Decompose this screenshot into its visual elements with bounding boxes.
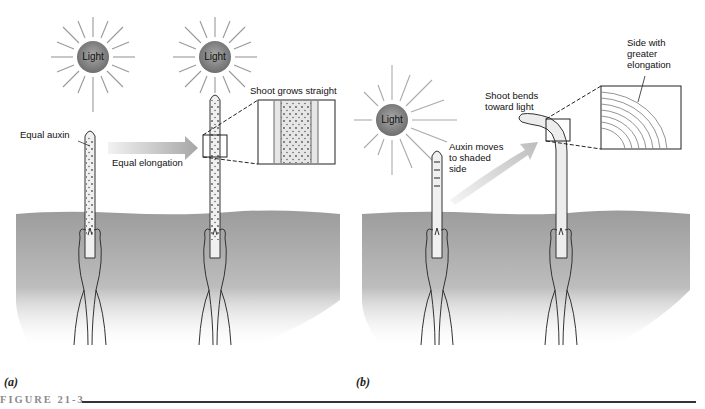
caption-rule [82,401,696,403]
phototropism-figure: Light Light Light Equal auxin Equal elon… [0,0,705,409]
label-shoot-grows-straight: Shoot grows straight [250,85,337,96]
figure-number: FIGURE 21-3 [0,394,85,405]
sun-icon-a1 [51,17,135,112]
zoom-inset-a [203,100,335,164]
label-shoot-bends-line2: toward light [485,101,538,112]
label-side-greater-line3: elongation [627,59,671,70]
label-equal-auxin: Equal auxin [20,129,70,140]
panel-label-a: (a) [4,375,18,390]
label-side-greater-elongation: Side with greater elongation [627,37,671,70]
sun-label-a1: Light [73,51,113,62]
sun-label-a2: Light [195,51,235,62]
soil-a [16,210,340,350]
seedling-a1-short [85,131,95,258]
label-shoot-bends-line1: Shoot bends [485,90,538,101]
seedling-b1-short [432,151,442,258]
label-auxin-moves: Auxin moves to shaded side [449,141,503,174]
sun-label-b: Light [372,114,412,125]
label-equal-elongation: Equal elongation [112,157,183,168]
zoom-inset-b [546,76,681,149]
label-shoot-bends: Shoot bends toward light [485,90,538,112]
label-auxin-moves-line3: side [449,163,503,174]
seedling-a2-tall [210,95,220,258]
label-auxin-moves-line2: to shaded [449,152,503,163]
soil-b [362,210,690,350]
label-side-greater-line1: Side with [627,37,671,48]
label-side-greater-line2: greater [627,48,671,59]
label-auxin-moves-line1: Auxin moves [449,141,503,152]
panel-label-b: (b) [356,375,370,390]
